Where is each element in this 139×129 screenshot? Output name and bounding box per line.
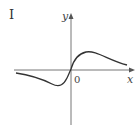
x-axis-label: x xyxy=(127,73,134,86)
y-axis-arrow-icon xyxy=(69,13,74,19)
function-curve xyxy=(16,52,127,86)
x-axis-arrow-icon xyxy=(129,68,135,73)
function-graph: y 0 x xyxy=(0,0,139,129)
origin-label: 0 xyxy=(74,74,80,85)
y-axis-label: y xyxy=(61,10,69,23)
